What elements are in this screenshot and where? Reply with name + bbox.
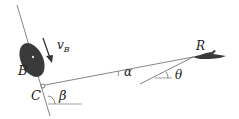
object-b-center [32,56,34,58]
label-b: B [18,64,28,77]
theta-arc [166,72,168,78]
label-c: C [31,89,41,102]
label-beta: β [59,89,67,102]
line-r-direction [140,57,193,84]
velocity-arrow-shaft [43,38,50,58]
diagram-canvas: vB B C β R α θ [0,0,239,119]
label-theta: θ [175,69,182,81]
beta-arc [48,96,55,104]
label-alpha: α [124,66,132,78]
velocity-label: vB [57,39,70,54]
alpha-arc [118,71,119,76]
label-r: R [196,40,205,52]
point-c [41,84,45,88]
line-c-to-r [45,57,193,85]
velocity-arrow-head [46,55,53,63]
